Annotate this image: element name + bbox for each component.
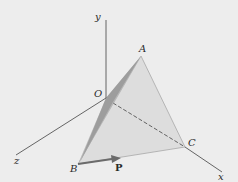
force-p-label: P [115, 162, 123, 173]
diagram-canvas: y A O C B P z x [0, 0, 238, 182]
z-axis-label: z [13, 155, 20, 166]
point-a-label: A [138, 43, 146, 54]
point-b-label: B [69, 163, 77, 174]
tetrahedron-figure: y A O C B P z x [0, 0, 238, 182]
point-o-label: O [94, 88, 102, 99]
x-axis-label: x [218, 171, 224, 182]
y-axis-label: y [94, 11, 101, 22]
point-c-label: C [188, 137, 196, 148]
x-axis [185, 147, 222, 172]
